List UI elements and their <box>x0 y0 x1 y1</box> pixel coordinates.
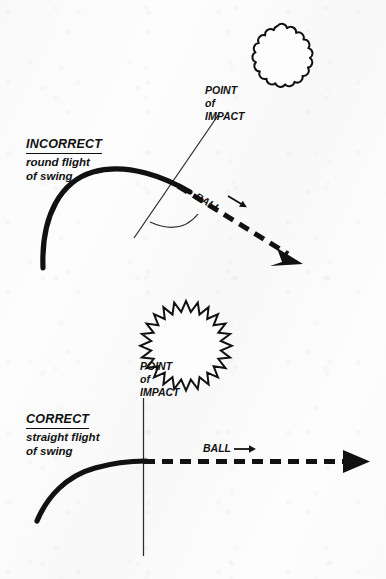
correct-impact-line1: POINT <box>140 360 179 373</box>
incorrect-label-block: INCORRECT round flight of swing <box>26 134 102 183</box>
incorrect-heading: INCORRECT <box>26 137 102 154</box>
incorrect-impact-line3: IMPACT <box>205 110 244 123</box>
correct-description-line1: straight flight <box>26 431 99 445</box>
swing-path-straight <box>37 461 146 521</box>
diagram-page: INCORRECT round flight of swing POINT of… <box>0 0 386 579</box>
ball-label-arrow-correct <box>234 445 256 453</box>
incorrect-impact-line1: POINT <box>205 84 244 97</box>
correct-heading: CORRECT <box>26 412 89 429</box>
incorrect-impact-label: POINT of IMPACT <box>205 84 244 123</box>
correct-impact-line3: IMPACT <box>140 386 179 399</box>
correct-ball-label: BALL <box>203 442 231 454</box>
incorrect-description-line1: round flight <box>26 156 102 170</box>
correct-impact-label: POINT of IMPACT <box>140 360 179 399</box>
correct-label-block: CORRECT straight flight of swing <box>26 409 99 458</box>
correct-impact-line2: of <box>140 373 179 386</box>
correct-panel-graphics <box>0 0 386 579</box>
ball-flight-arrowhead-correct <box>343 450 370 473</box>
incorrect-description-line2: of swing <box>26 170 102 184</box>
correct-description-line2: of swing <box>26 445 99 459</box>
incorrect-impact-line2: of <box>205 97 244 110</box>
